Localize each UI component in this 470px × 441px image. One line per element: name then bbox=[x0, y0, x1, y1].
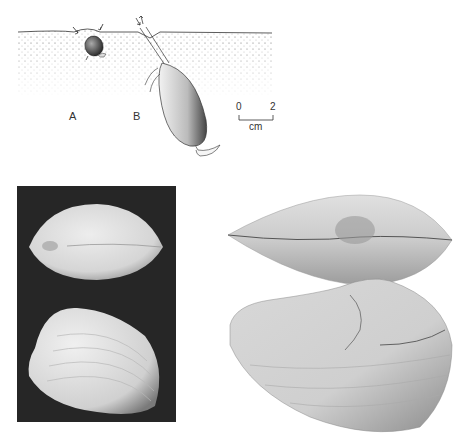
clam-shell-lateral-view bbox=[29, 308, 160, 414]
burrowing-diagram bbox=[0, 0, 290, 170]
photo-panel-left bbox=[17, 186, 176, 422]
sediment-layer bbox=[18, 29, 273, 100]
panel-label-b: B bbox=[133, 110, 140, 122]
scale-start: 0 bbox=[236, 101, 242, 112]
scale-bar bbox=[239, 115, 273, 120]
panel-label-a: A bbox=[69, 110, 76, 122]
scale-end: 2 bbox=[270, 101, 276, 112]
fossil-shell-lateral-view bbox=[230, 279, 452, 432]
clam-shell-dorsal-view bbox=[29, 204, 163, 280]
fossil-shell-dorsal-view bbox=[228, 195, 452, 285]
scale-unit: cm bbox=[249, 121, 262, 132]
clam-shells-photo bbox=[17, 186, 176, 422]
photo-panel-right bbox=[220, 185, 470, 441]
scientific-figure-plate: A B 0 2 cm bbox=[0, 0, 470, 441]
